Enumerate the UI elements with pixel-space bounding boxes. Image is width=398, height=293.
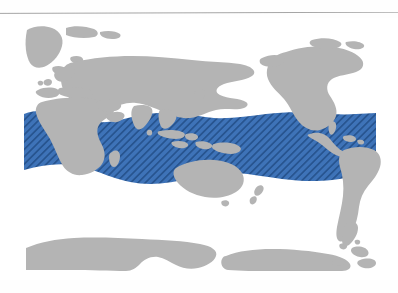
figure-root bbox=[0, 0, 398, 293]
world-map bbox=[0, 18, 398, 280]
page-horizontal-rule bbox=[0, 12, 398, 14]
